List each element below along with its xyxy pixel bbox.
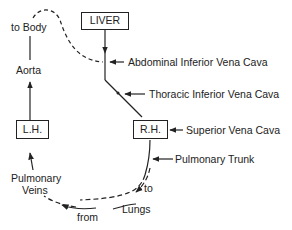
right-heart-label: R.H. — [140, 123, 161, 135]
abdominal-ivc-label: Abdominal Inferior Vena Cava — [128, 56, 268, 68]
thoracic-ivc-label: Thoracic Inferior Vena Cava — [149, 88, 279, 100]
superior-vc-label: Superior Vena Cava — [186, 124, 280, 136]
circulation-diagram: LIVER R.H. L.H. to Body Aorta Abdominal … — [0, 0, 292, 230]
to-label: to — [144, 182, 153, 194]
from-label: from — [77, 211, 98, 223]
left-heart-node: L.H. — [16, 120, 49, 139]
right-heart-node: R.H. — [133, 120, 168, 139]
veins-label: Veins — [22, 184, 48, 196]
aorta-label: Aorta — [16, 64, 41, 76]
left-heart-label: L.H. — [23, 123, 42, 135]
to-body-label: to Body — [11, 21, 47, 33]
pulmonary-trunk-label: Pulmonary Trunk — [175, 153, 254, 165]
liver-label: LIVER — [90, 14, 120, 26]
pulmonary-label: Pulmonary — [11, 172, 61, 184]
liver-node: LIVER — [81, 12, 129, 30]
lungs-label: Lungs — [122, 203, 151, 215]
